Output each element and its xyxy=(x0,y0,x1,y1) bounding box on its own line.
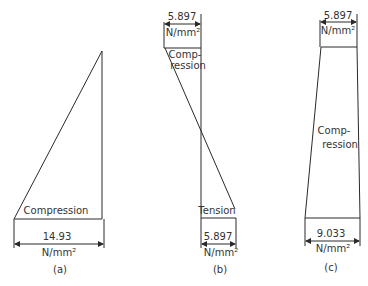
bottom-dimension-unit: N/mm² xyxy=(316,243,350,254)
top-dimension-unit: N/mm² xyxy=(166,27,200,38)
stress-distribution-diagram: Compression 14.93 N/mm² (a) 5.897 N/mm² … xyxy=(0,0,368,286)
tension-label: Tension xyxy=(197,205,235,216)
bottom-dimension-value: 5.897 xyxy=(204,231,233,242)
bottom-dimension-value: 9.033 xyxy=(317,228,346,239)
panel-a: Compression 14.93 N/mm² (a) xyxy=(14,51,104,275)
dimension-value: 14.93 xyxy=(43,231,72,242)
caption: (a) xyxy=(53,264,67,275)
stress-diagonal xyxy=(165,48,235,209)
bottom-dimension-unit: N/mm² xyxy=(204,247,238,258)
region-label: Compression xyxy=(24,205,89,216)
compression-label-line1: Comp- xyxy=(318,125,351,136)
compression-label-line2: ression xyxy=(322,139,358,150)
dimension-unit: N/mm² xyxy=(42,247,76,258)
panel-c: 5.897 N/mm² Comp- ression 9.033 N/mm² (c… xyxy=(305,10,360,273)
panel-b: 5.897 N/mm² Comp- ression Tension 5.897 … xyxy=(164,11,238,275)
top-dimension-value: 5.897 xyxy=(324,10,353,21)
compression-triangle xyxy=(14,51,102,219)
top-dimension-value: 5.897 xyxy=(168,11,197,22)
caption: (b) xyxy=(213,264,227,275)
top-dimension-unit: N/mm² xyxy=(321,25,355,36)
compression-label-line1: Comp- xyxy=(169,49,202,60)
compression-label-line2: ression xyxy=(170,60,206,71)
caption: (c) xyxy=(324,262,337,273)
